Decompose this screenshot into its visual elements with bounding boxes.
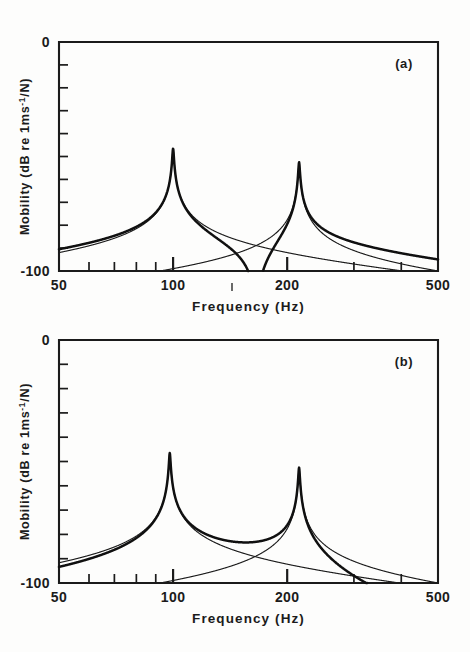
panel-a: 501002005000-100Frequency (Hz)Mobility (… (0, 0, 470, 320)
curve-mode-1 (59, 149, 406, 271)
curve-mode-1 (59, 453, 403, 583)
x-tick-label: 200 (275, 589, 300, 605)
x-axis-title: Frequency (Hz) (192, 611, 305, 626)
x-tick-label: 100 (161, 589, 186, 605)
figure-mobility-two-panel: 501002005000-100Frequency (Hz)Mobility (… (0, 0, 470, 652)
panel-label: (b) (395, 354, 413, 369)
plot-a-canvas: 501002005000-100Frequency (Hz)Mobility (… (0, 0, 470, 320)
x-tick-label: 500 (426, 277, 451, 293)
x-tick-label: 500 (426, 589, 451, 605)
y-tick-label-top: 0 (42, 34, 50, 50)
y-axis-title: Mobility (dB re 1ms-1/N) (17, 383, 33, 540)
y-tick-label-top: 0 (42, 332, 50, 348)
panel-label: (a) (395, 56, 413, 71)
panel-b: 501002005000-100Frequency (Hz)Mobility (… (0, 298, 470, 652)
x-tick-label: 100 (161, 277, 186, 293)
curve-total (59, 149, 438, 271)
y-tick-label-bottom: -100 (20, 263, 50, 279)
x-tick-label: 50 (51, 589, 67, 605)
y-tick-label-bottom: -100 (20, 575, 50, 591)
plot-b-canvas: 501002005000-100Frequency (Hz)Mobility (… (0, 298, 470, 652)
x-tick-label: 200 (275, 277, 300, 293)
y-axis-title-text: Mobility (dB re 1ms-1/N) (17, 383, 33, 540)
plot-frame (59, 42, 438, 271)
y-axis-title-text: Mobility (dB re 1ms-1/N) (17, 78, 33, 235)
curve-total (59, 453, 367, 583)
x-tick-label: 50 (51, 277, 67, 293)
y-axis-title: Mobility (dB re 1ms-1/N) (17, 78, 33, 235)
